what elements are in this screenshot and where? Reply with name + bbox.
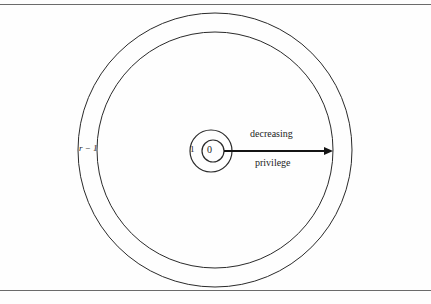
concentric-rings-diagram: [0, 0, 431, 304]
outer-ring-label: r − 1: [79, 143, 98, 153]
ring-one-label: 1: [190, 144, 195, 154]
decreasing-privilege-label-line2: privilege: [255, 157, 291, 168]
decreasing-privilege-label-line1: decreasing: [250, 128, 293, 139]
bottom-horizontal-rule: [0, 290, 431, 291]
figure-page: r − 1 1 0 decreasing privilege: [0, 0, 431, 304]
ring-zero-label: 0: [207, 144, 212, 155]
inner-ring-zero-circle: [202, 140, 224, 162]
arrow-head-icon: [324, 147, 333, 155]
